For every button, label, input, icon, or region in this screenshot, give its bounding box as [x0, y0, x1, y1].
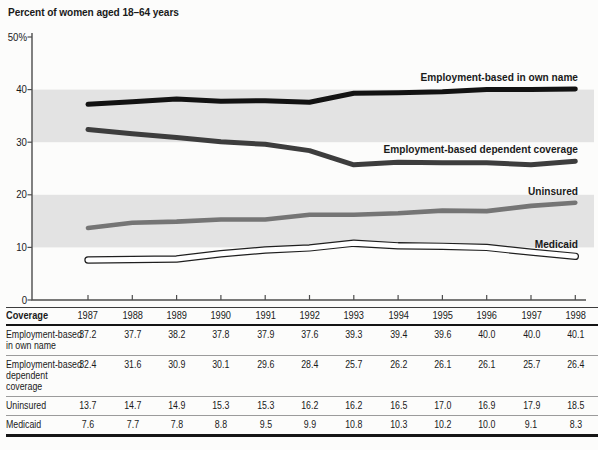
header-label: 1987	[78, 310, 99, 321]
value-cell: 39.6	[421, 325, 465, 356]
value-cell: 7.8	[155, 416, 199, 436]
cell-value: 25.7	[346, 359, 363, 370]
row-label-line: coverage	[6, 381, 42, 392]
cell-value: 30.1	[213, 359, 230, 370]
value-cell: 16.2	[332, 397, 376, 416]
year-header: 1995	[421, 308, 465, 326]
header-label: Coverage	[6, 310, 48, 321]
year-header: 1997	[509, 308, 553, 326]
value-cell: 38.2	[155, 325, 199, 356]
value-cell: 37.9	[243, 325, 287, 356]
row-label: Uninsured	[6, 397, 66, 416]
plot-band-0	[32, 195, 594, 248]
year-header: 1998	[554, 308, 598, 326]
cell-value: 39.6	[434, 329, 451, 340]
value-cell: 26.2	[376, 356, 420, 397]
row-label: Employment-baseddependentcoverage	[6, 356, 66, 397]
header-label: 1995	[433, 310, 454, 321]
cell-value: 40.0	[479, 329, 496, 340]
cell-value: 14.9	[168, 400, 185, 411]
cell-value: 39.4	[390, 329, 407, 340]
value-cell: 40.0	[509, 325, 553, 356]
year-header: 1988	[110, 308, 154, 326]
year-header: 1990	[199, 308, 243, 326]
cell-value: 15.3	[213, 400, 230, 411]
cell-value: 39.3	[346, 329, 363, 340]
value-cell: 25.7	[509, 356, 553, 397]
header-label: 1994	[388, 310, 409, 321]
cell-value: 37.8	[213, 329, 230, 340]
row-label: Medicaid	[6, 416, 66, 436]
value-cell: 10.2	[421, 416, 465, 436]
header-label: 1991	[255, 310, 276, 321]
header-label: 1988	[122, 310, 143, 321]
year-header: 1992	[288, 308, 332, 326]
series-label-dependent: Employment-based dependent coverage	[383, 143, 578, 156]
value-cell: 10.8	[332, 416, 376, 436]
value-cell: 14.7	[110, 397, 154, 416]
cell-value: 38.2	[168, 329, 185, 340]
cell-value: 30.9	[168, 359, 185, 370]
table-header-row: Coverage19871988198919901991199219931994…	[6, 308, 598, 326]
cell-value: 29.6	[257, 359, 274, 370]
table-row: Employment-baseddependentcoverage32.431.…	[6, 356, 598, 397]
value-cell: 29.6	[243, 356, 287, 397]
row-label-line: dependent	[6, 370, 48, 381]
value-cell: 17.9	[509, 397, 553, 416]
series-label-uninsured: Uninsured	[528, 184, 578, 197]
cell-value: 14.7	[124, 400, 141, 411]
value-cell: 16.9	[465, 397, 509, 416]
value-cell: 13.7	[66, 397, 110, 416]
cell-value: 25.7	[523, 359, 540, 370]
coverage-data-table: Coverage19871988198919901991199219931994…	[6, 307, 598, 437]
table-row: Employment-basedin own name37.237.738.23…	[6, 325, 598, 356]
cell-value: 10.0	[479, 419, 496, 430]
y-tick-label: 30	[16, 136, 27, 147]
row-label-line: Employment-based	[6, 359, 82, 370]
row-label-line: Employment-based	[6, 329, 82, 340]
value-cell: 31.6	[110, 356, 154, 397]
table-row: Medicaid7.67.77.88.89.59.910.810.310.210…	[6, 416, 598, 436]
value-cell: 26.1	[421, 356, 465, 397]
cell-value: 9.5	[259, 419, 271, 430]
header-label: 1993	[344, 310, 365, 321]
value-cell: 26.1	[465, 356, 509, 397]
cell-value: 15.3	[257, 400, 274, 411]
value-cell: 9.9	[288, 416, 332, 436]
value-cell: 8.8	[199, 416, 243, 436]
year-header: 1987	[66, 308, 110, 326]
header-label: 1992	[300, 310, 321, 321]
value-cell: 9.5	[243, 416, 287, 436]
cell-value: 13.7	[80, 400, 97, 411]
value-cell: 15.3	[243, 397, 287, 416]
value-cell: 7.6	[66, 416, 110, 436]
value-cell: 26.4	[554, 356, 598, 397]
y-tick-label: 0	[22, 294, 28, 305]
cell-value: 31.6	[124, 359, 141, 370]
header-label: 1997	[521, 310, 542, 321]
value-cell: 7.7	[110, 416, 154, 436]
cell-value: 37.9	[257, 329, 274, 340]
cell-value: 40.0	[523, 329, 540, 340]
row-label: Employment-basedin own name	[6, 325, 66, 356]
cell-value: 9.1	[525, 419, 537, 430]
header-label: 1989	[167, 310, 188, 321]
cell-value: 40.1	[567, 329, 584, 340]
cell-value: 26.1	[479, 359, 496, 370]
series-label-own-name: Employment-based in own name	[421, 70, 578, 83]
value-cell: 10.0	[465, 416, 509, 436]
value-cell: 39.4	[376, 325, 420, 356]
coverage-header: Coverage	[6, 308, 66, 326]
value-cell: 14.9	[155, 397, 199, 416]
cell-value: 37.6	[301, 329, 318, 340]
value-cell: 17.0	[421, 397, 465, 416]
cell-value: 16.5	[390, 400, 407, 411]
value-cell: 39.3	[332, 325, 376, 356]
cell-value: 37.2	[80, 329, 97, 340]
cell-value: 17.9	[523, 400, 540, 411]
cell-value: 9.9	[304, 419, 316, 430]
cell-value: 18.5	[567, 400, 584, 411]
year-header: 1994	[376, 308, 420, 326]
cell-value: 8.3	[570, 419, 582, 430]
value-cell: 16.5	[376, 397, 420, 416]
